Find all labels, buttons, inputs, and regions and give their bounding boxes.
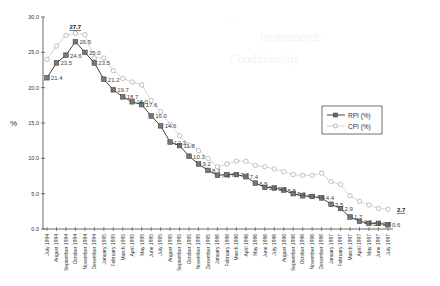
cpi-point <box>319 171 323 175</box>
x-tick-label: February 1997 <box>337 234 343 267</box>
rpi-data-label: 4.6 <box>316 194 325 200</box>
rpi-point <box>158 124 163 129</box>
y-tick-label: 10.0 <box>28 155 39 161</box>
legend: RPI (%) CPI (%) <box>322 106 382 134</box>
rpi-data-label: 23.5 <box>98 60 110 66</box>
cpi-point <box>92 56 96 60</box>
cpi-point <box>386 207 390 211</box>
rpi-data-label: 21.4 <box>51 75 63 81</box>
rpi-data-label: 3.5 <box>335 202 344 208</box>
rpi-data-label: 4.4 <box>326 195 335 201</box>
cpi-point <box>54 44 58 48</box>
rpi-data-label: 14.6 <box>165 123 177 129</box>
rpi-point <box>168 140 173 145</box>
y-tick-label: 20.0 <box>28 85 39 91</box>
x-tick-label: September 1996 <box>290 234 296 271</box>
rpi-point <box>73 39 78 44</box>
rpi-point <box>196 162 201 167</box>
rpi-data-label: 7.7 <box>240 172 249 178</box>
cpi-peak-label: 27.7 <box>69 24 81 30</box>
cpi-point <box>310 173 314 177</box>
rpi-point <box>120 95 125 100</box>
rpi-point <box>45 75 50 80</box>
x-tick-label: December 1996 <box>318 234 324 270</box>
x-tick-label: October 1994 <box>72 234 78 265</box>
rpi-point <box>102 77 107 82</box>
x-tick-label: March 1997 <box>347 234 353 261</box>
line-chart: 0.05.010.015.020.025.030.0July 1994Augus… <box>0 0 440 286</box>
rpi-data-label: 19.7 <box>117 87 129 93</box>
rpi-data-label: 21.2 <box>108 77 120 83</box>
cpi-point <box>282 170 286 174</box>
cpi-point <box>206 156 210 160</box>
x-tick-label: January 1996 <box>214 234 220 265</box>
cpi-point <box>121 76 125 80</box>
x-tick-label: February 1996 <box>224 234 230 267</box>
x-tick-label: July 1996 <box>271 234 277 256</box>
rpi-data-label: 23.5 <box>60 60 72 66</box>
x-tick-label: June 1996 <box>262 234 268 258</box>
cpi-end-label: 2.7 <box>397 207 406 213</box>
cpi-point <box>348 194 352 198</box>
cpi-point <box>73 31 77 35</box>
rpi-point <box>206 168 211 173</box>
y-tick-label: 15.0 <box>28 120 39 126</box>
cpi-point <box>177 134 181 138</box>
y-axis-label: % <box>10 119 17 128</box>
rpi-data-label: 24.6 <box>70 53 82 59</box>
cpi-point <box>291 172 295 176</box>
x-tick-label: September 1994 <box>63 234 69 271</box>
cpi-point <box>357 199 361 203</box>
rpi-legend-marker-icon <box>334 113 338 117</box>
cpi-legend-marker-icon <box>334 124 338 128</box>
rpi-point <box>253 181 258 186</box>
cpi-point <box>367 203 371 207</box>
rpi-data-label: 5.9 <box>269 185 278 191</box>
x-tick-label: May 1996 <box>252 234 258 256</box>
cpi-point <box>244 159 248 163</box>
rpi-point <box>149 114 154 119</box>
cpi-point <box>225 162 229 166</box>
y-tick-label: 30.0 <box>28 14 39 20</box>
x-tick-label: October 1996 <box>299 234 305 265</box>
cpi-point <box>111 69 115 73</box>
x-tick-label: January 1997 <box>328 234 334 265</box>
x-tick-label: September 1995 <box>176 234 182 271</box>
y-tick-label: 25.0 <box>28 49 39 55</box>
cpi-point <box>263 165 267 169</box>
x-tick-label: April 1996 <box>243 234 249 257</box>
rpi-data-label: 5.5 <box>288 188 297 194</box>
cpi-point <box>140 83 144 87</box>
x-tick-label: November 1994 <box>82 234 88 270</box>
y-tick-label: 5.0 <box>31 191 39 197</box>
rpi-data-label: 16.0 <box>155 113 167 119</box>
legend-box <box>322 106 382 134</box>
rpi-point <box>187 154 192 159</box>
legend-label-cpi: CPI (%) <box>348 123 371 131</box>
x-tick-label: August 1995 <box>167 234 173 262</box>
rpi-data-label: 11.8 <box>184 143 196 149</box>
x-tick-label: April 1997 <box>356 234 362 257</box>
legend-label-rpi: RPI (%) <box>348 112 371 120</box>
rpi-data-label: 1.1 <box>364 219 373 225</box>
rpi-data-label: 5.8 <box>278 186 287 192</box>
x-tick-label: August 1996 <box>281 234 287 262</box>
rpi-point <box>348 215 353 220</box>
rpi-data-label: 5.0 <box>297 191 306 197</box>
x-tick-label: October 1995 <box>186 234 192 265</box>
rpi-data-label: 4.7 <box>307 193 316 199</box>
x-tick-label: December 1995 <box>205 234 211 270</box>
cpi-point <box>64 33 68 37</box>
cpi-point <box>338 182 342 186</box>
cpi-point <box>300 173 304 177</box>
cpi-point <box>234 159 238 163</box>
rpi-data-label: 26.5 <box>79 39 91 45</box>
x-tick-label: July 1994 <box>44 234 50 256</box>
x-tick-label: January 1995 <box>101 234 107 265</box>
cpi-point <box>196 148 200 152</box>
rpi-data-label: 9.2 <box>203 161 212 167</box>
x-tick-label: April 1995 <box>129 234 135 257</box>
x-tick-label: March 1995 <box>120 234 126 261</box>
x-tick-label: May 1995 <box>139 234 145 256</box>
rpi-data-label: 8.3 <box>212 168 221 174</box>
